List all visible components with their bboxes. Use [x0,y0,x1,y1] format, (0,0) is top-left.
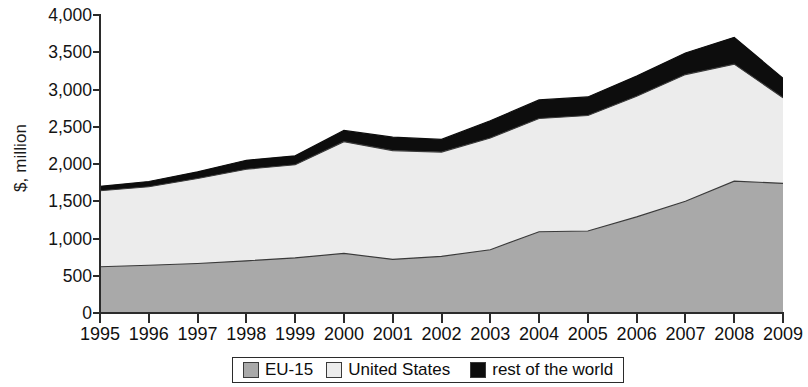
x-tick-label: 2001 [373,324,413,345]
x-tick-mark [782,314,784,323]
y-tick-label: 1,000 [8,228,92,249]
x-tick-mark [197,314,199,323]
x-tick-label: 1998 [226,324,266,345]
x-tick-mark [148,314,150,323]
x-tick-mark [392,314,394,323]
x-tick-mark [636,314,638,323]
legend-label: rest of the world [492,360,613,380]
legend-item-united-states[interactable]: United States [326,360,450,380]
x-tick-label: 2003 [470,324,510,345]
x-axis-tick-labels: 1995199619971998199920002001200220032004… [0,324,808,350]
legend-label: United States [348,360,450,380]
chart-legend: EU-15United Statesrest of the world [232,357,624,383]
legend-item-rest-of-the-world[interactable]: rest of the world [470,360,613,380]
y-tick-label: 1,500 [8,191,92,212]
x-tick-mark [489,314,491,323]
y-tick-mark [93,312,101,314]
y-axis-tick-labels: 05001,0001,5002,0002,5003,0003,5004,000 [0,0,92,330]
x-tick-label: 2002 [421,324,461,345]
y-tick-label: 2,000 [8,154,92,175]
legend-swatch-icon [326,362,342,378]
y-tick-label: 3,000 [8,79,92,100]
y-tick-label: 500 [8,265,92,286]
y-tick-label: 3,500 [8,42,92,63]
legend-label: EU-15 [265,360,313,380]
x-tick-mark [294,314,296,323]
x-tick-label: 2000 [324,324,364,345]
y-tick-mark [93,238,101,240]
x-tick-label: 2009 [763,324,803,345]
x-tick-mark [441,314,443,323]
x-tick-label: 2007 [665,324,705,345]
x-tick-label: 1997 [178,324,218,345]
area-series-svg [100,15,783,313]
legend-swatch-icon [243,362,259,378]
x-tick-mark [99,314,101,323]
y-tick-mark [93,200,101,202]
x-tick-label: 2005 [568,324,608,345]
y-tick-mark [93,163,101,165]
x-tick-label: 2006 [617,324,657,345]
plot-area [100,15,783,313]
x-tick-label: 1999 [275,324,315,345]
y-tick-mark [93,275,101,277]
x-tick-mark [245,314,247,323]
y-tick-mark [93,51,101,53]
x-tick-label: 2008 [714,324,754,345]
x-tick-mark [587,314,589,323]
x-tick-mark [538,314,540,323]
legend-item-eu-15[interactable]: EU-15 [243,360,313,380]
y-tick-label: 4,000 [8,5,92,26]
x-tick-label: 1995 [80,324,120,345]
x-tick-label: 1996 [129,324,169,345]
x-tick-mark [733,314,735,323]
y-tick-mark [93,89,101,91]
x-tick-mark [343,314,345,323]
legend-swatch-icon [470,362,486,378]
y-tick-mark [93,126,101,128]
stacked-area-chart: $, million 05001,0001,5002,0002,5003,000… [0,0,808,387]
x-tick-mark [684,314,686,323]
y-tick-mark [93,14,101,16]
x-tick-label: 2004 [519,324,559,345]
y-tick-label: 2,500 [8,116,92,137]
